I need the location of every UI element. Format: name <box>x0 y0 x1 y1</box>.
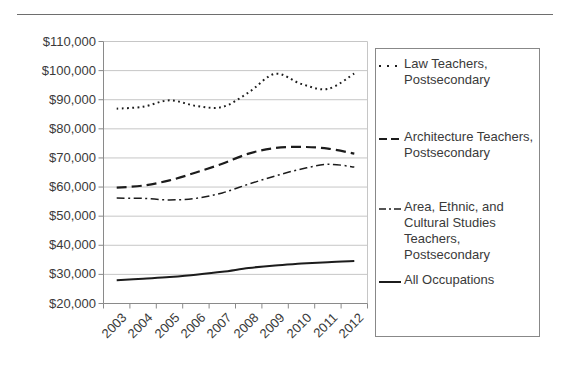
legend-label: Law Teachers, Postsecondary <box>404 56 541 88</box>
legend-marker-area-ethnic-cultural-studies-teachers-line-icon <box>378 200 402 216</box>
series-line-all-occupations <box>117 261 355 280</box>
legend-label: Area, Ethnic, and Cultural Studies Teach… <box>404 199 541 263</box>
chart-container: $110,000$100,000$90,000$80,000$70,000$60… <box>0 0 566 376</box>
series-line-architecture-teachers <box>117 147 355 188</box>
legend-entry-area-ethnic-cultural-studies-teachers: Area, Ethnic, and Cultural Studies Teach… <box>378 199 541 263</box>
legend-marker-all-occupations-line-icon <box>378 273 402 289</box>
legend-entry-all-occupations: All Occupations <box>378 272 541 289</box>
y-axis-label: $50,000 <box>30 209 96 223</box>
y-axis-label: $40,000 <box>30 238 96 252</box>
legend-entry-architecture-teachers: Architecture Teachers, Postsecondary <box>378 129 541 161</box>
legend-label: Architecture Teachers, Postsecondary <box>404 129 541 161</box>
y-axis-label: $80,000 <box>30 122 96 136</box>
legend-entry-law-teachers: Law Teachers, Postsecondary <box>378 56 541 88</box>
y-axis-label: $70,000 <box>30 151 96 165</box>
series-line-area-ethnic-cultural-studies-teachers <box>117 164 355 200</box>
series-line-law-teachers <box>117 74 355 109</box>
y-axis-label: $60,000 <box>30 180 96 194</box>
legend-marker-architecture-teachers-line-icon <box>378 130 402 146</box>
legend-label: All Occupations <box>404 272 541 288</box>
y-axis-label: $20,000 <box>30 297 96 311</box>
legend: Law Teachers, PostsecondaryArchitecture … <box>375 48 540 337</box>
legend-marker-law-teachers-line-icon <box>378 57 402 73</box>
y-axis-label: $90,000 <box>30 93 96 107</box>
y-axis-label: $100,000 <box>30 64 96 78</box>
y-axis-label: $30,000 <box>30 267 96 281</box>
y-axis-label: $110,000 <box>30 35 96 49</box>
